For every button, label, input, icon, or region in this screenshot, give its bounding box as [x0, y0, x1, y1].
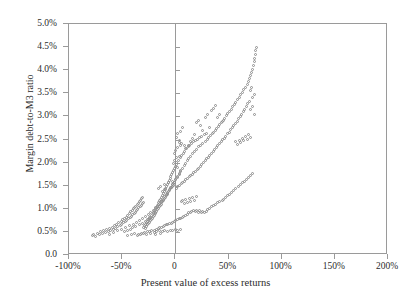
x-axis-tick-label: 200% — [376, 261, 398, 272]
scatter-point — [245, 105, 248, 108]
scatter-point — [195, 121, 198, 124]
scatter-point — [242, 139, 245, 142]
scatter-point — [248, 100, 251, 103]
scatter-point — [163, 183, 166, 186]
scatter-point — [94, 235, 97, 238]
scatter-point — [176, 166, 179, 169]
scatter-point — [189, 155, 192, 158]
scatter-point — [210, 109, 213, 112]
scatter-point — [145, 233, 148, 236]
scatter-point — [187, 144, 190, 147]
scatter-point — [214, 104, 217, 107]
y-axis-tick-label: 0.5% — [37, 226, 57, 236]
scatter-point — [208, 126, 211, 129]
x-axis-tick — [387, 254, 388, 259]
zero-line-tick — [176, 116, 180, 117]
scatter-point — [221, 199, 224, 202]
x-axis-tick-label: 150% — [323, 261, 345, 272]
scatter-point — [179, 144, 182, 147]
scatter-point — [181, 167, 184, 170]
scatter-point — [251, 68, 254, 71]
scatter-point — [149, 232, 152, 235]
x-axis-tick — [334, 254, 335, 259]
scatter-point — [205, 210, 208, 213]
scatter-point — [249, 89, 252, 92]
scatter-point — [174, 178, 177, 181]
scatter-point — [251, 172, 254, 175]
scatter-point — [178, 155, 181, 158]
x-axis-title: Present value of excess returns — [0, 277, 411, 289]
scatter-point — [253, 113, 256, 116]
scatter-point — [218, 113, 221, 116]
scatter-point — [246, 102, 249, 105]
scatter-point — [159, 185, 162, 188]
scatter-point — [253, 93, 256, 96]
scatter-point — [174, 149, 177, 152]
scatter-point — [172, 162, 175, 165]
x-axis-tick-label: 0 — [172, 261, 177, 272]
scatter-point — [126, 234, 129, 237]
scatter-point — [253, 60, 256, 63]
zero-line-tick — [176, 93, 180, 94]
scatter-point — [148, 216, 151, 219]
scatter-point — [116, 229, 119, 232]
y-axis-tick-label: 0.0 — [45, 249, 57, 259]
scatter-point — [178, 141, 181, 144]
y-axis-tick-label: 1.5% — [37, 180, 57, 190]
scatter-point — [181, 126, 184, 129]
scatter-point — [255, 46, 258, 49]
x-axis-tick-label: -100% — [55, 261, 80, 272]
scatter-point — [176, 132, 179, 135]
x-axis-tick-label: -50% — [111, 261, 132, 272]
x-axis-tick — [174, 254, 175, 259]
x-axis-tick — [68, 254, 69, 259]
scatter-point — [201, 129, 204, 132]
y-axis-tick-label: 4.0% — [37, 64, 57, 74]
scatter-point — [179, 228, 182, 231]
scatter-point — [244, 86, 247, 89]
x-axis-tick-label: 50% — [219, 261, 236, 272]
y-axis-tick-label: 2.0% — [37, 157, 57, 167]
y-axis-tick-label: 3.5% — [37, 87, 57, 97]
scatter-point — [249, 108, 252, 111]
x-axis-tick-label: 100% — [270, 261, 292, 272]
x-axis-tick — [228, 254, 229, 259]
y-axis-tick-label: 5.0% — [37, 18, 57, 28]
scatter-point — [193, 133, 196, 136]
x-axis-tick — [281, 254, 282, 259]
scatter-point — [142, 201, 145, 204]
scatter-point — [253, 57, 256, 60]
scatter-point — [228, 131, 231, 134]
scatter-point — [162, 198, 165, 201]
scatter-point — [183, 164, 186, 167]
scatter-point — [250, 71, 253, 74]
scatter-chart-figure: 0.00.5%1.0%1.5%2.0%2.5%3.0%3.5%4.0%4.5%5… — [0, 0, 411, 301]
scatter-point — [154, 233, 157, 236]
scatter-point — [152, 209, 155, 212]
scatter-point — [250, 86, 253, 89]
scatter-point — [195, 195, 198, 198]
scatter-point — [195, 148, 198, 151]
scatter-point — [112, 231, 115, 234]
scatter-point — [241, 91, 244, 94]
scatter-point — [141, 196, 144, 199]
y-axis-title: Margin debt-to-M3 ratio — [24, 34, 35, 214]
scatter-point — [249, 74, 252, 77]
zero-line-tick — [176, 209, 180, 210]
scatter-point — [177, 159, 180, 162]
scatter-point — [108, 233, 111, 236]
scatter-point — [248, 77, 251, 80]
scatter-points-layer — [69, 24, 386, 253]
scatter-point — [216, 116, 219, 119]
zero-line-tick — [176, 47, 180, 48]
scatter-point — [246, 83, 249, 86]
zero-line-tick — [176, 186, 180, 187]
scatter-point — [223, 117, 226, 120]
scatter-point — [251, 105, 254, 108]
scatter-point — [251, 96, 254, 99]
zero-line-tick — [176, 232, 180, 233]
scatter-point — [247, 80, 250, 83]
scatter-point — [176, 146, 179, 149]
scatter-point — [252, 64, 255, 67]
scatter-point — [193, 199, 196, 202]
